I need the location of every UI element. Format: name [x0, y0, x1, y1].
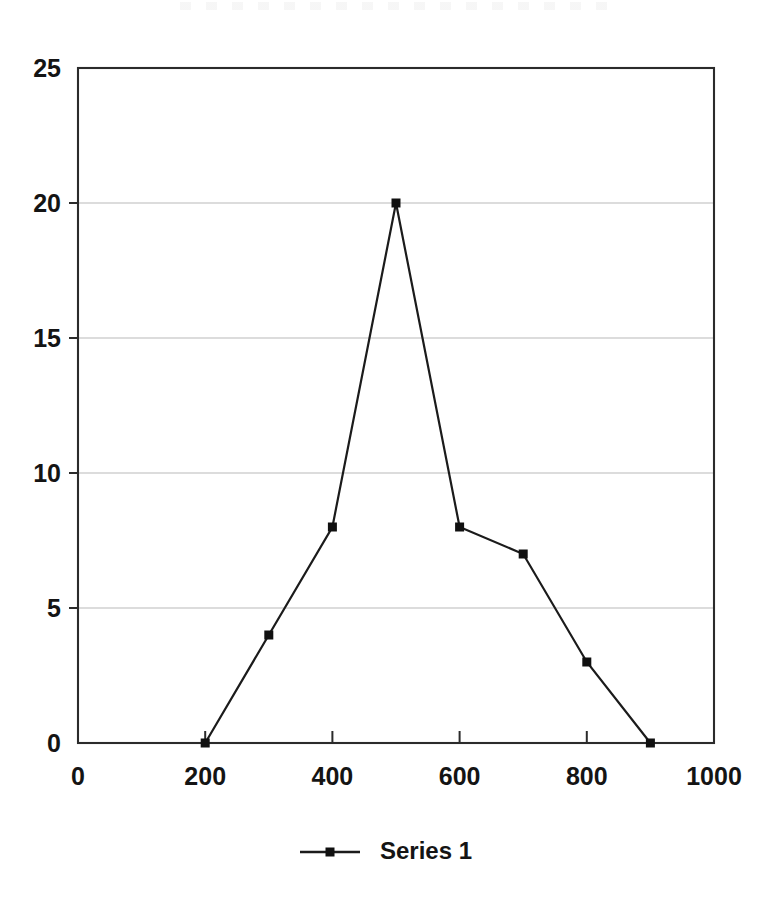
legend-label-series-1: Series 1	[380, 837, 472, 864]
series-1-point-400	[328, 523, 337, 532]
x-tick-label-0: 0	[71, 762, 85, 790]
y-tick-label-10: 10	[33, 459, 61, 487]
series-1-point-200	[201, 739, 210, 748]
series-1-point-800	[582, 658, 591, 667]
x-tick-label-400: 400	[312, 762, 354, 790]
y-tick-label-15: 15	[33, 324, 61, 352]
legend-marker-sample	[326, 848, 335, 857]
line-chart-figure: 0510152025 02004006008001000 Series 1	[0, 0, 783, 901]
series-1-point-700	[519, 550, 528, 559]
series-1-point-300	[264, 631, 273, 640]
x-axis-tick-labels: 02004006008001000	[71, 762, 742, 790]
plot-background	[78, 68, 714, 743]
y-tick-label-25: 25	[33, 54, 61, 82]
x-tick-label-800: 800	[566, 762, 608, 790]
y-tick-label-20: 20	[33, 189, 61, 217]
x-tick-label-200: 200	[184, 762, 226, 790]
chart-canvas: 0510152025 02004006008001000 Series 1	[0, 0, 783, 901]
x-tick-label-600: 600	[439, 762, 481, 790]
series-1-point-600	[455, 523, 464, 532]
y-axis-ticks-group	[69, 203, 78, 608]
series-1-point-500	[392, 199, 401, 208]
y-tick-label-5: 5	[47, 594, 61, 622]
legend: Series 1	[300, 837, 472, 864]
x-tick-label-1000: 1000	[686, 762, 742, 790]
y-tick-label-0: 0	[47, 729, 61, 757]
y-axis-tick-labels: 0510152025	[33, 54, 61, 757]
series-1-point-900	[646, 739, 655, 748]
